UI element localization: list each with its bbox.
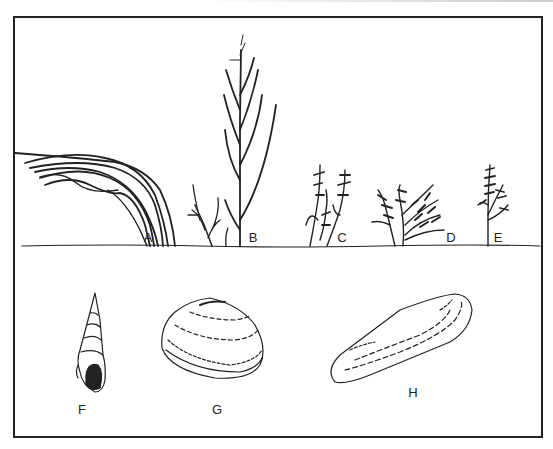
label-f: F: [78, 403, 86, 416]
label-g: G: [212, 403, 222, 416]
label-e: E: [494, 231, 503, 244]
label-b: B: [249, 231, 258, 244]
plant-d-drawing: [372, 185, 444, 246]
plant-b-drawing: [188, 35, 276, 246]
ground-line: [22, 245, 540, 247]
shell-h-drawing: [331, 294, 472, 383]
illustration-canvas: [0, 0, 553, 449]
label-h: H: [408, 386, 417, 399]
label-c: C: [337, 231, 346, 244]
label-a: A: [144, 231, 153, 244]
shell-g-drawing: [162, 298, 263, 378]
shell-f-drawing: [77, 293, 106, 392]
label-d: D: [446, 231, 455, 244]
